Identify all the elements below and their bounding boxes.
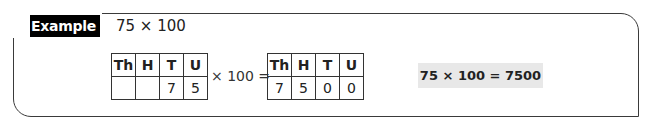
place-value-table-before: Th H T U 7 5 — [111, 53, 208, 100]
example-prompt: 75 × 100 — [116, 16, 186, 36]
cell-thousands: 7 — [268, 77, 292, 100]
multiply-operator: × 100 = — [211, 67, 270, 85]
answer-box: 75 × 100 = 7500 — [418, 63, 543, 88]
cell-hundreds — [136, 77, 160, 100]
header-tens: T — [160, 54, 184, 77]
header-thousands: Th — [112, 54, 136, 77]
header-hundreds: H — [292, 54, 316, 77]
cell-hundreds: 5 — [292, 77, 316, 100]
header-units: U — [184, 54, 208, 77]
cell-tens: 0 — [316, 77, 340, 100]
cell-units: 5 — [184, 77, 208, 100]
header-tens: T — [316, 54, 340, 77]
cell-units: 0 — [340, 77, 364, 100]
header-thousands: Th — [268, 54, 292, 77]
place-value-table-after: Th H T U 7 5 0 0 — [267, 53, 364, 100]
cell-tens: 7 — [160, 77, 184, 100]
header-units: U — [340, 54, 364, 77]
cell-thousands — [112, 77, 136, 100]
example-label: Example — [30, 15, 100, 37]
header-hundreds: H — [136, 54, 160, 77]
